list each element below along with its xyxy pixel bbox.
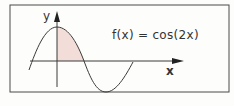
shaded-area	[57, 27, 84, 61]
diagram-canvas	[0, 0, 234, 106]
y-axis-arrow-icon	[54, 11, 60, 22]
y-axis-label: y	[43, 9, 50, 23]
function-label: f(x) = cos(2x)	[112, 28, 199, 42]
x-axis-label: x	[166, 64, 174, 78]
